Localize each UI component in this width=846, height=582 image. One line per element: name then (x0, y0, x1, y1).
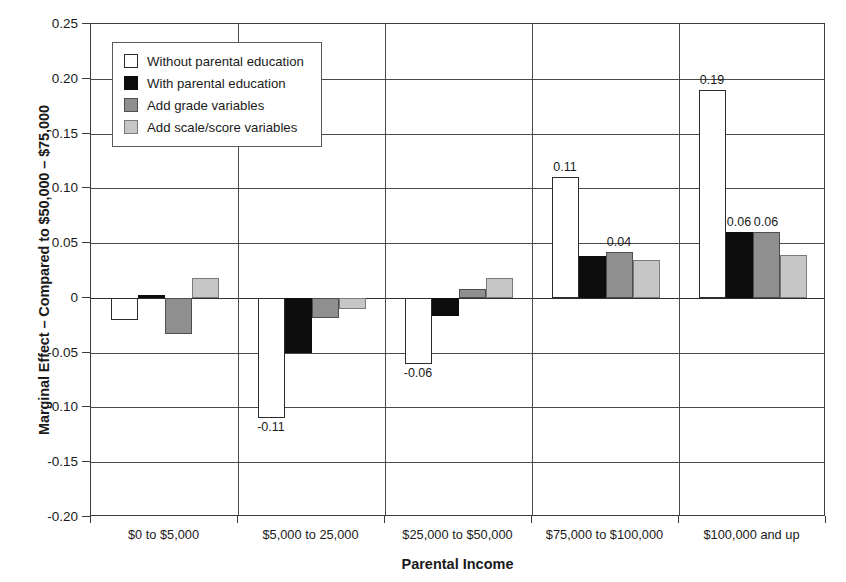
chart-legend: Without parental educationWith parental … (112, 42, 322, 147)
x-axis-tick-mark (531, 516, 532, 523)
legend-item[interactable]: Add scale/score variables (124, 116, 321, 138)
y-axis-tick-mark (82, 406, 90, 407)
bar (285, 298, 312, 353)
legend-swatch-icon (124, 54, 138, 68)
x-axis-tick-label: $5,000 to 25,000 (226, 527, 396, 542)
y-axis-tick-mark (82, 23, 90, 24)
bar (432, 298, 459, 317)
legend-item[interactable]: Without parental education (124, 50, 321, 72)
y-axis-tick-mark (82, 187, 90, 188)
x-axis-tick-mark (237, 516, 238, 523)
bar (726, 232, 753, 298)
legend-swatch-icon (124, 120, 138, 134)
gridline (91, 462, 824, 463)
x-axis-tick-label: $100,000 and up (667, 527, 837, 542)
legend-item-label: With parental education (147, 76, 286, 91)
chart-figure: Marginal Effect – Compared to $50,000 – … (0, 0, 846, 582)
bar-value-label: -0.11 (257, 420, 285, 434)
bar (780, 255, 807, 298)
bar-value-label: 0.06 (754, 215, 778, 229)
y-axis-title: Marginal Effect – Compared to $50,000 – … (36, 30, 52, 510)
bar (606, 252, 633, 298)
group-separator (385, 24, 386, 515)
x-axis-tick-mark (90, 516, 91, 523)
bar (633, 260, 660, 298)
y-axis-tick-label: 0.10 (18, 180, 78, 195)
y-axis-tick-mark (82, 242, 90, 243)
y-axis-tick-label: -0.20 (18, 509, 78, 524)
group-separator (679, 24, 680, 515)
y-axis-tick-mark (82, 352, 90, 353)
legend-item-label: Add grade variables (147, 98, 264, 113)
y-axis-tick-mark (82, 516, 90, 517)
legend-swatch-icon (124, 98, 138, 112)
bar-value-label: 0.06 (727, 215, 751, 229)
bar (405, 298, 432, 364)
y-axis-tick-label: 0.15 (18, 125, 78, 140)
bar (339, 298, 366, 309)
bar (192, 278, 219, 298)
x-axis-tick-label: $25,000 to $50,000 (373, 527, 543, 542)
bar (699, 90, 726, 298)
bar (753, 232, 780, 298)
x-axis-title: Parental Income (90, 556, 825, 572)
y-axis-tick-label: -0.05 (18, 344, 78, 359)
gridline (91, 353, 824, 354)
y-axis-tick-label: 0.20 (18, 70, 78, 85)
y-axis-tick-label: -0.10 (18, 399, 78, 414)
bar (138, 295, 165, 298)
y-axis-tick-mark (82, 78, 90, 79)
y-axis-tick-label: 0 (18, 289, 78, 304)
gridline (91, 407, 824, 408)
bar (459, 289, 486, 298)
group-separator (532, 24, 533, 515)
x-axis-tick-label: $0 to $5,000 (79, 527, 249, 542)
legend-item-label: Add scale/score variables (147, 120, 297, 135)
bar-value-label: 0.04 (607, 235, 631, 249)
x-axis-tick-mark (678, 516, 679, 523)
y-axis-tick-label: -0.15 (18, 454, 78, 469)
legend-item-label: Without parental education (147, 54, 304, 69)
x-axis-tick-mark (825, 516, 826, 523)
bar (111, 298, 138, 320)
x-axis-tick-label: $75,000 to $100,000 (520, 527, 690, 542)
bar (552, 177, 579, 298)
bar (258, 298, 285, 419)
bar (486, 278, 513, 298)
y-axis-tick-mark (82, 133, 90, 134)
legend-swatch-icon (124, 76, 138, 90)
bar-value-label: 0.11 (553, 160, 576, 174)
bar-value-label: 0.19 (700, 73, 724, 87)
legend-item[interactable]: With parental education (124, 72, 321, 94)
bar (579, 256, 606, 298)
bar-value-label: -0.06 (404, 366, 433, 380)
x-axis-tick-mark (384, 516, 385, 523)
y-axis-tick-mark (82, 297, 90, 298)
bar (312, 298, 339, 318)
bar (165, 298, 192, 334)
y-axis-tick-label: 0.25 (18, 16, 78, 31)
y-axis-tick-label: 0.05 (18, 235, 78, 250)
y-axis-tick-mark (82, 461, 90, 462)
legend-item[interactable]: Add grade variables (124, 94, 321, 116)
